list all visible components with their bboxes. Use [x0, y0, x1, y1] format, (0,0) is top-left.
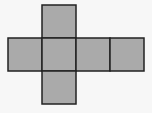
face-far-right: [110, 38, 144, 71]
cube-net-diagram: [0, 0, 152, 113]
face-bottom: [42, 71, 76, 104]
face-left: [8, 38, 42, 71]
face-right: [76, 38, 110, 71]
face-top: [42, 5, 76, 38]
face-center: [42, 38, 76, 71]
